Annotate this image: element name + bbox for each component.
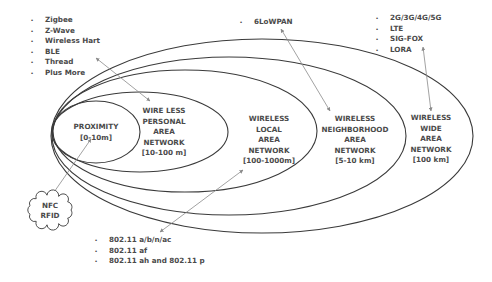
wpan-label-line: PERSONAL — [142, 117, 186, 126]
wlan-label-line: AREA — [258, 135, 280, 144]
network-labels: PROXIMITY[0-10m]WIRE LESSPERSONALAREANET… — [74, 106, 452, 165]
bullet-icon: • — [31, 28, 33, 34]
proximity-label: PROXIMITY[0-10m] — [74, 122, 120, 142]
wnan-label-line: NEIGHBORHOOD — [322, 125, 389, 134]
wpan-label: WIRE LESSPERSONALAREANETWORK[10-100 m] — [142, 106, 187, 157]
technology-item: Plus More — [45, 68, 85, 77]
technology-item: 6LoWPAN — [254, 17, 293, 26]
technology-item: 802.11 ah and 802.11 p — [109, 256, 205, 265]
technology-item: LORA — [390, 45, 412, 54]
cloud-label-line: RFID — [40, 211, 59, 220]
bullet-icon: • — [376, 36, 378, 42]
bullet-icon: • — [376, 26, 378, 32]
bullet-icon: • — [31, 59, 33, 65]
bullet-icon: • — [95, 248, 97, 254]
wwan-label-line: NETWORK — [411, 145, 452, 154]
technology-item: BLE — [45, 47, 60, 56]
wlan-label-line: [100-1000m] — [243, 156, 295, 165]
wpan-label-line: NETWORK — [144, 138, 185, 147]
wpan-label-line: AREA — [153, 127, 175, 136]
bullet-icon: • — [31, 38, 33, 44]
proximity-label-line: PROXIMITY — [74, 122, 120, 131]
wnan-label: WIRELESSNEIGHBORHOODAREANETWORK[5-10 km] — [322, 114, 389, 165]
technology-item: Z-Wave — [45, 26, 75, 35]
cloud-icon — [28, 190, 72, 230]
wnan-label-line: NETWORK — [335, 146, 376, 155]
wpan-label-line: [10-100 m] — [142, 148, 187, 157]
bullet-icon: • — [95, 258, 97, 264]
wwan-label-line: AREA — [420, 134, 442, 143]
arrow-wlan — [160, 170, 243, 232]
technology-item: LTE — [390, 24, 403, 33]
wlan-label: WIRELESSLOCALAREANETWORK[100-1000m] — [243, 114, 295, 165]
bullet-icon: • — [376, 15, 378, 21]
bullet-icon: • — [31, 70, 33, 76]
proximity-label-line: [0-10m] — [80, 133, 112, 142]
wpan-technologies: •Zigbee•Z-Wave•Wireless Hart•BLE•Thread•… — [31, 15, 101, 77]
wwan-label: WIRELESSWIDEAREANETWORK[100 km] — [411, 113, 452, 164]
technology-item: Thread — [45, 57, 73, 66]
wwan-technologies: •2G/3G/4G/5G•LTE•SIG-FOX•LORA — [376, 13, 442, 54]
technology-item: Zigbee — [45, 15, 73, 24]
wlan-label-line: WIRELESS — [249, 114, 290, 123]
bullet-icon: • — [95, 237, 97, 243]
network-range-diagram: NFCRFID PROXIMITY[0-10m]WIRE LESSPERSONA… — [0, 0, 492, 282]
cloud-label: NFCRFID — [40, 201, 59, 220]
wnan-label-line: [5-10 km] — [335, 156, 374, 165]
bullet-icon: • — [31, 49, 33, 55]
bullet-icon: • — [240, 19, 242, 25]
wlan-technologies: •802.11 a/b/n/ac•802.11 af•802.11 ah and… — [95, 235, 205, 265]
wnan-label-line: WIRELESS — [335, 114, 376, 123]
bullet-icon: • — [376, 47, 378, 53]
wwan-label-line: WIRELESS — [411, 113, 452, 122]
wwan-label-line: WIDE — [420, 124, 442, 133]
cloud-label-line: NFC — [42, 201, 58, 210]
wpan-label-line: WIRE LESS — [142, 106, 185, 115]
wlan-label-line: NETWORK — [249, 146, 290, 155]
arrow-wwan — [423, 47, 431, 111]
bullet-icon: • — [31, 17, 33, 23]
technology-item: Wireless Hart — [45, 36, 101, 45]
technology-item: 802.11 a/b/n/ac — [109, 235, 171, 244]
wlan-label-line: LOCAL — [256, 125, 282, 134]
wwan-label-line: [100 km] — [413, 155, 449, 164]
wnan-label-line: AREA — [344, 135, 366, 144]
technology-item: 2G/3G/4G/5G — [390, 13, 442, 22]
technology-item: SIG-FOX — [390, 34, 423, 43]
nfc-rfid-cloud: NFCRFID — [28, 190, 72, 230]
technology-item: 802.11 af — [109, 246, 148, 255]
wnan-technologies: •6LoWPAN — [240, 17, 293, 26]
